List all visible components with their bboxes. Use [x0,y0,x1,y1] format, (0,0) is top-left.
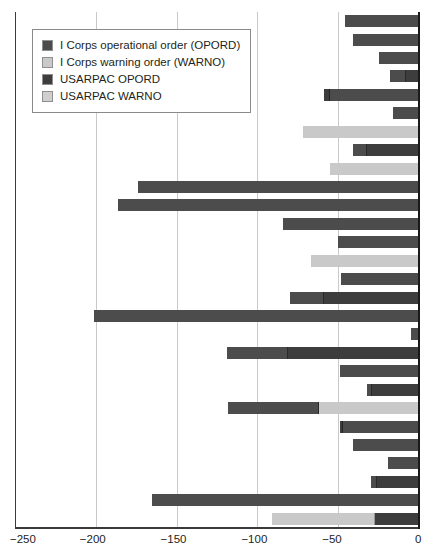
bar-stack[interactable] [324,89,419,101]
legend-item-label: I Corps warning order (WARNO) [60,57,225,68]
bar-segment-icorps-opord[interactable] [94,310,419,322]
bar-stack[interactable] [283,218,419,230]
bar-segment-usarpac-opord[interactable] [377,476,419,488]
bar-stack[interactable] [393,107,419,119]
bar-segment-icorps-opord[interactable] [341,273,419,285]
bar-chart: −250−200−150−100−500 I Corps operational… [0,0,431,557]
bar-stack[interactable] [227,347,419,359]
bar-segment-icorps-warno[interactable] [319,402,419,414]
bar-segment-icorps-opord[interactable] [353,34,419,46]
bar-row [15,233,419,251]
bar-stack[interactable] [353,144,419,156]
bar-segment-usarpac-opord[interactable] [288,347,419,359]
bar-segment-icorps-opord[interactable] [379,52,419,64]
x-tick-label: −200 [80,533,106,545]
bar-segment-icorps-opord[interactable] [393,107,419,119]
bar-row [15,473,419,491]
bar-stack[interactable] [367,384,419,396]
bar-segment-icorps-opord[interactable] [290,292,324,304]
legend-swatch-icorps-warno [42,57,53,68]
bar-segment-icorps-opord[interactable] [388,457,419,469]
bar-segment-icorps-opord[interactable] [118,199,419,211]
bar-row [15,178,419,196]
zero-axis-line [418,12,421,529]
bar-stack[interactable] [330,163,419,175]
bar-row [15,344,419,362]
bar-segment-icorps-warno[interactable] [272,513,375,525]
bar-row [15,436,419,454]
bar-row [15,362,419,380]
bar-row [15,491,419,509]
legend-item[interactable]: USARPAC WARNO [42,88,240,105]
bar-row [15,510,419,528]
bar-segment-usarpac-opord[interactable] [367,144,419,156]
x-tick-label: −150 [161,533,187,545]
legend-item-label: USARPAC OPORD [60,74,160,85]
bar-stack[interactable] [390,70,419,82]
bar-stack[interactable] [290,292,419,304]
bar-segment-icorps-opord[interactable] [340,365,419,377]
bar-row [15,252,419,270]
bar-row [15,270,419,288]
bar-segment-icorps-opord[interactable] [152,494,419,506]
bar-stack[interactable] [311,255,419,267]
x-tick-label: 0 [415,533,421,545]
bar-row [15,381,419,399]
bar-stack[interactable] [340,365,419,377]
bar-row [15,307,419,325]
bar-segment-icorps-warno[interactable] [303,126,419,138]
legend-item[interactable]: I Corps operational order (OPORD) [42,37,240,54]
bar-segment-icorps-opord[interactable] [353,144,368,156]
bar-stack[interactable] [338,236,419,248]
legend-item-label: I Corps operational order (OPORD) [60,40,240,51]
bar-row [15,417,419,435]
legend-item[interactable]: USARPAC OPORD [42,71,240,88]
bar-segment-icorps-opord[interactable] [227,347,288,359]
bar-segment-icorps-opord[interactable] [283,218,419,230]
bar-stack[interactable] [94,310,419,322]
bar-segment-usarpac-opord[interactable] [375,513,419,525]
bar-stack[interactable] [272,513,419,525]
bar-segment-icorps-warno[interactable] [311,255,419,267]
bar-row [15,215,419,233]
x-tick-label: −250 [10,533,36,545]
bar-segment-icorps-opord[interactable] [138,181,419,193]
bar-segment-icorps-warno[interactable] [330,163,419,175]
bar-stack[interactable] [353,34,419,46]
bar-segment-icorps-opord[interactable] [390,70,406,82]
bar-stack[interactable] [118,199,419,211]
bar-row [15,12,419,30]
x-tick-label: −100 [241,533,267,545]
x-tick-label: −50 [322,533,342,545]
bar-stack[interactable] [345,15,419,27]
bar-stack[interactable] [340,421,419,433]
bar-segment-icorps-opord[interactable] [353,439,419,451]
bar-segment-icorps-opord[interactable] [338,236,419,248]
bar-row [15,123,419,141]
bar-stack[interactable] [379,52,419,64]
bar-row [15,454,419,472]
bar-stack[interactable] [138,181,419,193]
bar-segment-usarpac-opord[interactable] [324,292,419,304]
chart-legend: I Corps operational order (OPORD)I Corps… [32,29,251,113]
bar-stack[interactable] [341,273,419,285]
bar-stack[interactable] [388,457,419,469]
legend-swatch-icorps-opord [42,40,53,51]
bar-stack[interactable] [152,494,419,506]
bar-stack[interactable] [371,476,419,488]
x-axis-line [15,527,419,529]
bar-segment-icorps-opord[interactable] [228,402,318,414]
bar-segment-icorps-opord[interactable] [330,89,419,101]
legend-item[interactable]: I Corps warning order (WARNO) [42,54,240,71]
legend-swatch-usarpac-warno [42,91,53,102]
bar-segment-usarpac-opord[interactable] [372,384,419,396]
bar-stack[interactable] [303,126,419,138]
legend-item-label: USARPAC WARNO [60,91,162,102]
bar-row [15,141,419,159]
legend-swatch-usarpac-opord [42,74,53,85]
bar-stack[interactable] [353,439,419,451]
bar-segment-icorps-opord[interactable] [345,15,419,27]
bar-segment-icorps-opord[interactable] [343,421,419,433]
bar-stack[interactable] [228,402,419,414]
bar-row [15,288,419,306]
